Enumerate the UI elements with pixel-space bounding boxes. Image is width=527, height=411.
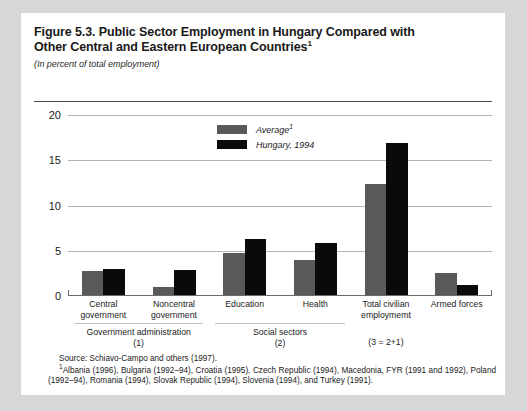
category-label-line1: Central	[89, 299, 117, 309]
y-axis-tick-label: 20	[49, 109, 61, 121]
legend-swatch-hungary	[217, 140, 247, 149]
group-label: (3 = 2+1)	[351, 327, 422, 348]
legend-item-average: Average1	[217, 123, 314, 136]
title-divider	[34, 101, 492, 102]
category-label: Noncentralgovernment	[139, 299, 210, 320]
y-axis-tick-label: 5	[55, 245, 61, 257]
source-note: Source: Schiavo-Campo and others (1997).	[48, 354, 496, 365]
bar-hungary	[174, 270, 196, 296]
bar-average	[365, 184, 387, 296]
category-label-line1: Total civilian	[363, 299, 410, 309]
category-label-line1: Armed forces	[431, 299, 483, 309]
category-label-line1: Education	[225, 299, 264, 309]
legend: Average1 Hungary, 1994	[217, 123, 314, 153]
group-label-line1: Government administration	[68, 327, 209, 338]
figure-title: Figure 5.3. Public Sector Employment in …	[34, 25, 492, 55]
category-label: Education	[209, 299, 280, 310]
bar-average	[435, 273, 457, 296]
category-labels: CentralgovernmentNoncentralgovernmentEdu…	[68, 299, 492, 325]
group-label: Government administration(1)	[68, 327, 209, 348]
bar-average	[294, 260, 316, 296]
group-label-line2: (3 = 2+1)	[351, 337, 422, 348]
figure-title-footnote-marker: 1	[307, 39, 311, 48]
bar-hungary	[103, 269, 125, 296]
bar-hungary	[245, 239, 267, 296]
group-label-line2: (1)	[68, 338, 209, 349]
group-label-line1: Social sectors	[209, 327, 350, 338]
legend-label-hungary: Hungary, 1994	[256, 140, 314, 150]
x-axis-right-tick	[491, 290, 492, 296]
notes-block: Source: Schiavo-Campo and others (1997).…	[48, 354, 496, 387]
y-axis-tick-label: 15	[49, 154, 61, 166]
bar-average	[223, 253, 245, 296]
group-label: Social sectors(2)	[209, 327, 350, 348]
footnote-text: Albania (1996), Bulgaria (1992–94), Croa…	[48, 366, 496, 386]
x-axis-line	[68, 295, 492, 296]
figure-title-line1: Figure 5.3. Public Sector Employment in …	[34, 25, 415, 39]
figure-title-line2: Other Central and Eastern European Count…	[34, 40, 307, 54]
category-label-line2: government	[151, 310, 197, 320]
category-label-line1: Health	[303, 299, 328, 309]
legend-label-average: Average1	[256, 125, 293, 135]
group-rule	[215, 323, 344, 324]
category-label-line2: employmemt	[361, 310, 411, 320]
legend-item-hungary: Hungary, 1994	[217, 138, 314, 151]
legend-swatch-average	[217, 125, 247, 134]
category-label-line2: government	[80, 310, 126, 320]
figure-subtitle: (In percent of total employment)	[34, 59, 492, 69]
title-block: Figure 5.3. Public Sector Employment in …	[34, 25, 492, 69]
bar-hungary	[315, 243, 337, 296]
bar-average	[82, 271, 104, 296]
y-axis-tick-label: 10	[49, 200, 61, 212]
category-label-line1: Noncentral	[153, 299, 195, 309]
group-rule	[74, 323, 203, 324]
category-label: Health	[280, 299, 351, 310]
figure-page: Figure 5.3. Public Sector Employment in …	[0, 0, 527, 411]
y-axis-tick-label: 0	[55, 290, 61, 302]
category-label: Total civilianemploymemt	[351, 299, 422, 320]
group-label-line2: (2)	[209, 338, 350, 349]
category-label: Centralgovernment	[68, 299, 139, 320]
x-axis-left-tick	[68, 290, 69, 296]
group-labels: Government administration(1)Social secto…	[68, 323, 492, 349]
category-label: Armed forces	[421, 299, 492, 310]
figure-sheet: Figure 5.3. Public Sector Employment in …	[21, 13, 505, 395]
footnote-1: 1Albania (1996), Bulgaria (1992–94), Cro…	[48, 366, 496, 387]
bar-hungary	[386, 143, 408, 296]
